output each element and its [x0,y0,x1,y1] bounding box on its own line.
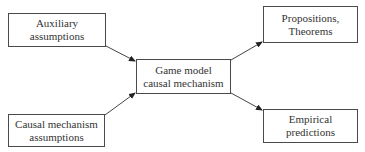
node-label-line2: causal mechanism [143,77,223,90]
node-propositions-theorems: Propositions, Theorems [263,6,358,43]
edge-game-model-to-propositions [231,42,262,60]
node-label-line2: assumptions [29,131,83,144]
node-label-line2: assumptions [30,30,84,43]
node-label-line2: predictions [286,126,335,139]
node-auxiliary-assumptions: Auxiliary assumptions [8,13,106,47]
node-game-model: Game model causal mechanism [136,59,231,94]
node-label-line1: Empirical [289,113,332,126]
edge-auxiliary-to-game-model [106,46,135,61]
node-empirical-predictions: Empirical predictions [263,109,358,143]
edge-game-model-to-empirical [231,93,262,110]
node-label-line2: Theorems [289,25,333,38]
node-label-line1: Game model [155,64,212,77]
edge-causal-to-game-model [105,93,135,115]
node-causal-mechanism-assumptions: Causal mechanism assumptions [8,114,105,147]
node-label-line1: Propositions, [282,12,340,25]
node-label-line1: Causal mechanism [15,118,98,131]
node-label-line1: Auxiliary [36,17,78,30]
